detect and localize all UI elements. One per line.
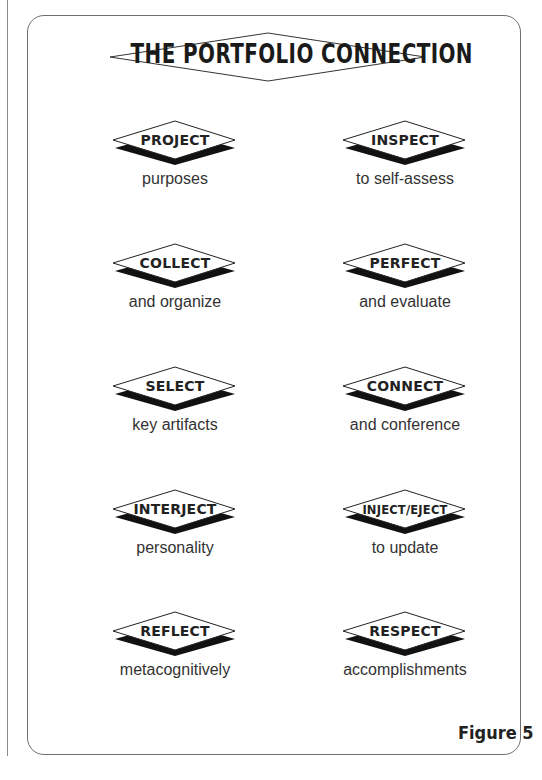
concept-word: PERFECT [315, 255, 495, 271]
figure-title: THE PORTFOLIO CONNECTION [131, 38, 410, 69]
page-margin-rule [7, 0, 8, 756]
concept-word: SELECT [85, 378, 265, 394]
concept-inspect: INSPECT to self-assess [315, 118, 495, 198]
concept-word: PROJECT [85, 132, 265, 148]
concept-project: PROJECT purposes [85, 118, 265, 198]
concept-caption: to self-assess [295, 170, 515, 188]
concept-word: RESPECT [315, 623, 495, 639]
concept-select: SELECT key artifacts [85, 364, 265, 444]
concept-word: INSPECT [315, 132, 495, 148]
title-banner: THE PORTFOLIO CONNECTION [100, 28, 440, 88]
concept-word: REFLECT [85, 623, 265, 639]
concept-caption: to update [295, 539, 515, 557]
concept-word: INJECT/EJECT [315, 503, 495, 517]
concept-caption: and conference [295, 416, 515, 434]
concept-caption: key artifacts [65, 416, 285, 434]
concept-interject: INTERJECT personality [85, 487, 265, 567]
concept-caption: metacognitively [65, 661, 285, 679]
figure-number: Figure 5 [458, 722, 534, 743]
concept-caption: and organize [65, 293, 285, 311]
concept-caption: accomplishments [295, 661, 515, 679]
concept-word: INTERJECT [85, 501, 265, 517]
concept-word: COLLECT [85, 255, 265, 271]
concept-caption: purposes [65, 170, 285, 188]
concept-inject-eject: INJECT/EJECT to update [315, 487, 495, 567]
concept-reflect: REFLECT metacognitively [85, 609, 265, 689]
concept-word: CONNECT [315, 378, 495, 394]
concept-caption: and evaluate [295, 293, 515, 311]
concept-respect: RESPECT accomplishments [315, 609, 495, 689]
concept-caption: personality [65, 539, 285, 557]
concept-connect: CONNECT and conference [315, 364, 495, 444]
concept-collect: COLLECT and organize [85, 241, 265, 321]
concept-perfect: PERFECT and evaluate [315, 241, 495, 321]
